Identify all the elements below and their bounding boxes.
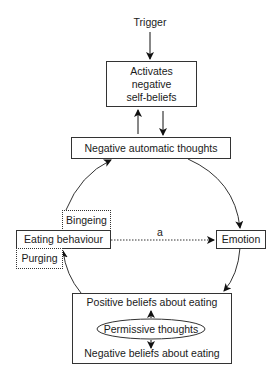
permissive-thoughts-label: Permissive thoughts <box>97 323 205 336</box>
purging-box: Purging <box>16 248 63 269</box>
eating-behaviour-label: Eating behaviour <box>24 233 103 246</box>
positive-beliefs-label: Positive beliefs about eating <box>72 296 232 309</box>
emotion-label: Emotion <box>222 233 261 246</box>
negative-beliefs-label: Negative beliefs about eating <box>72 347 232 360</box>
trigger-label: Trigger <box>120 16 180 29</box>
eating-behaviour-box: Eating behaviour <box>16 230 111 249</box>
activates-line-2: negative <box>132 78 172 91</box>
purging-label: Purging <box>21 252 57 265</box>
emotion-box: Emotion <box>216 230 266 249</box>
emotion-to-beliefs-arrow <box>224 248 240 291</box>
eating-to-nat-arrow <box>66 160 111 210</box>
edge-label-a: a <box>150 226 170 239</box>
activates-line-3: self-beliefs <box>126 91 176 104</box>
activates-line-1: Activates <box>130 65 173 78</box>
nat-label: Negative automatic thoughts <box>84 142 217 155</box>
activates-box: Activates negative self-beliefs <box>106 61 197 107</box>
beliefs-to-eating-arrow <box>63 251 81 293</box>
nat-box: Negative automatic thoughts <box>71 137 231 159</box>
bingeing-box: Bingeing <box>62 210 111 231</box>
bingeing-label: Bingeing <box>66 214 107 227</box>
nat-to-emotion-arrow <box>188 159 240 228</box>
